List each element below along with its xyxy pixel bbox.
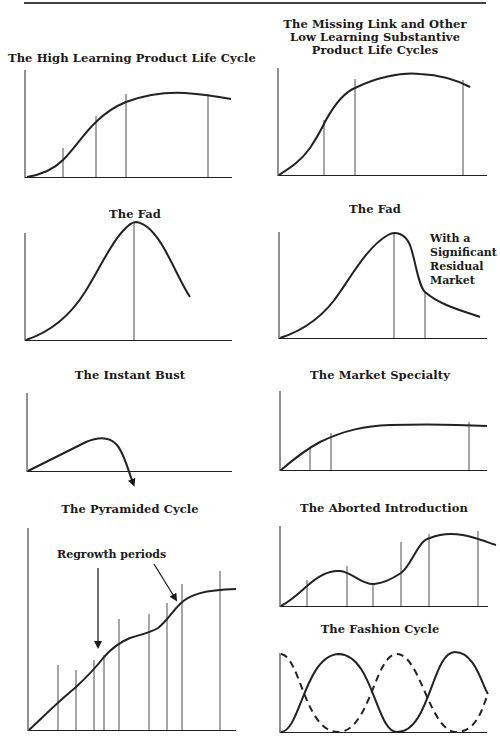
chart-fad: [25, 222, 232, 341]
chart-pyramided: [28, 528, 236, 731]
chart-fashion: [280, 652, 488, 733]
chart-instant-bust: [27, 393, 232, 483]
chart-missing-link: [278, 68, 487, 176]
chart-market-specialty: [280, 391, 487, 471]
chart-fad-residual: [279, 232, 487, 339]
chart-high-learning: [25, 70, 232, 178]
fashion-solid-series: [281, 652, 488, 732]
diagrams-canvas: [0, 0, 500, 743]
chart-aborted: [280, 526, 496, 607]
